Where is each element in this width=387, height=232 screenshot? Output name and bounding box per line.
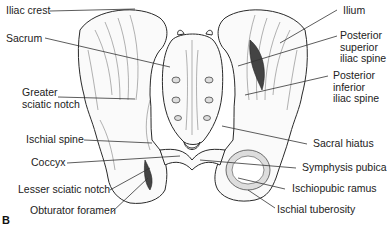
label-greater-sciatic-notch: Greatersciatic notch <box>22 87 80 110</box>
label-coccyx: Coccyx <box>31 157 65 169</box>
label-lesser-sciatic-notch: Lesser sciatic notch <box>18 184 110 196</box>
sacrum <box>162 30 222 149</box>
label-ischial-tuberosity: Ischial tuberosity <box>277 204 355 216</box>
label-text: Ischial tuberosity <box>277 204 355 216</box>
label-text: Iliac crest <box>6 5 50 17</box>
label-text: iliac spine <box>333 93 379 105</box>
label-iliac-crest: Iliac crest <box>6 5 50 17</box>
label-text: Ischiopubic ramus <box>292 183 377 195</box>
label-text: Sacral hiatus <box>313 138 374 150</box>
label-text: Posterior <box>333 70 379 82</box>
label-text: Posterior <box>340 30 386 42</box>
label-sacral-hiatus: Sacral hiatus <box>313 138 374 150</box>
pubic-symphysis <box>160 149 225 170</box>
label-ischiopubic-ramus: Ischiopubic ramus <box>292 183 377 195</box>
label-posterior-inferior-iliac-spine: Posteriorinferioriliac spine <box>333 70 379 105</box>
label-text: Ischial spine <box>26 134 84 146</box>
right-hip-bone <box>215 10 307 201</box>
label-text: Greater <box>22 87 80 99</box>
label-ilium: Ilium <box>343 5 365 17</box>
label-text: Ilium <box>343 5 365 17</box>
label-text: iliac spine <box>340 53 386 65</box>
label-sacrum: Sacrum <box>6 33 42 45</box>
label-obturator-foramen: Obturator foramen <box>30 205 116 217</box>
label-text: Symphysis pubica <box>302 162 387 174</box>
label-posterior-superior-iliac-spine: Posteriorsuperioriliac spine <box>340 30 386 65</box>
label-ischial-spine: Ischial spine <box>26 134 84 146</box>
panel-label: B <box>2 214 10 226</box>
label-text: sciatic notch <box>22 99 80 111</box>
label-text: Sacrum <box>6 33 42 45</box>
label-text: Coccyx <box>31 157 65 169</box>
label-text: Obturator foramen <box>30 205 116 217</box>
left-hip-bone <box>78 10 167 204</box>
label-text: Lesser sciatic notch <box>18 184 110 196</box>
label-symphysis-pubica: Symphysis pubica <box>302 162 387 174</box>
